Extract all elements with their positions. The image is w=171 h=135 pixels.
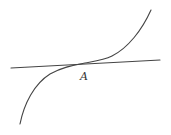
point-label-a: A (79, 70, 88, 83)
diagram-canvas: A (0, 0, 171, 135)
tangent-line (11, 60, 160, 68)
